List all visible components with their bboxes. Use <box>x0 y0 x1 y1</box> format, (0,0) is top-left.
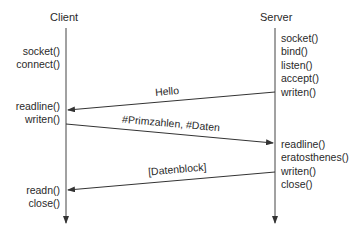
server-calls-group2: readline() eratosthenes() writen() close… <box>281 138 349 192</box>
client-call: connect() <box>16 58 60 71</box>
server-call: bind() <box>281 45 319 58</box>
client-header: Client <box>50 11 78 23</box>
server-call: listen() <box>281 59 319 72</box>
server-call: accept() <box>281 72 319 85</box>
client-call: readline() <box>16 100 60 113</box>
client-calls-group3: readn() close() <box>26 184 60 211</box>
server-calls-group1: socket() bind() listen() accept() writen… <box>281 32 319 99</box>
message-label-hello: Hello <box>155 84 180 98</box>
server-call: writen() <box>281 86 319 99</box>
client-call: socket() <box>16 45 60 58</box>
server-call: writen() <box>281 165 349 178</box>
client-call: readn() <box>26 184 60 197</box>
server-call: readline() <box>281 138 349 151</box>
server-call: socket() <box>281 32 319 45</box>
server-header: Server <box>260 11 292 23</box>
client-calls-group2: readline() writen() <box>16 100 60 127</box>
client-call: close() <box>26 197 60 210</box>
server-call: eratosthenes() <box>281 151 349 164</box>
client-call: writen() <box>16 113 60 126</box>
client-calls-group1: socket() connect() <box>16 45 60 72</box>
server-call: close() <box>281 178 349 191</box>
